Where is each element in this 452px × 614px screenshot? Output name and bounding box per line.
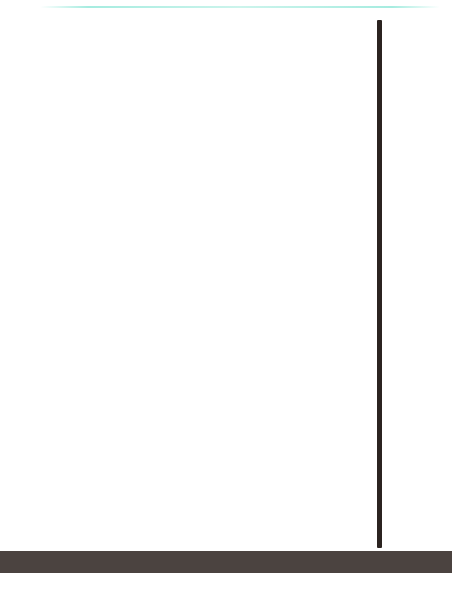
x-axis-band: [0, 551, 452, 573]
chart-page: [0, 0, 452, 614]
y-axis-line: [377, 20, 382, 548]
top-decorative-rule: [40, 6, 440, 8]
bar-series-container: [22, 22, 372, 546]
plot-area: [22, 22, 372, 546]
